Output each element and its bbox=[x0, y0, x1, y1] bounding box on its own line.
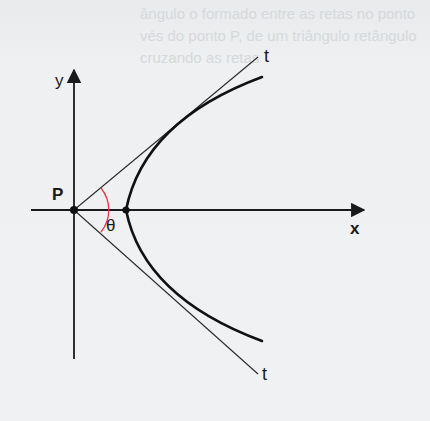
hyperbola-curve bbox=[126, 77, 262, 341]
diagram: y x P θ t t bbox=[0, 0, 430, 421]
point-p bbox=[70, 206, 78, 214]
x-axis-label: x bbox=[350, 219, 360, 238]
tangent-bottom-label: t bbox=[262, 364, 267, 384]
vertex-point bbox=[122, 206, 129, 213]
angle-theta-label: θ bbox=[106, 216, 115, 235]
tangent-line-bottom bbox=[74, 210, 258, 374]
point-p-label: P bbox=[52, 185, 63, 204]
y-axis-label: y bbox=[55, 71, 64, 90]
tangent-top-label: t bbox=[264, 46, 269, 66]
